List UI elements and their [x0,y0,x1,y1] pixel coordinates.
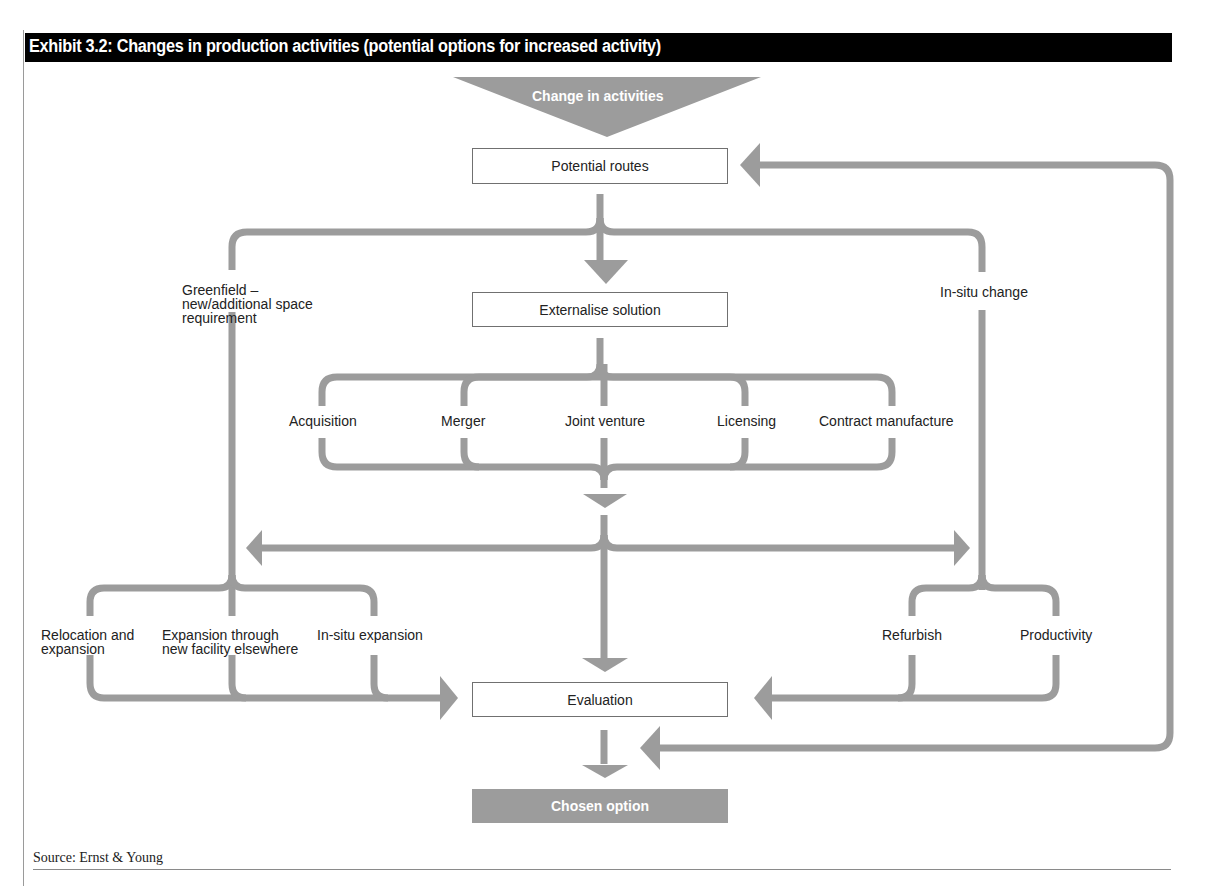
externalise-solution-box: Externalise solution [472,292,728,327]
evaluation-box: Evaluation [472,682,728,717]
option-refurbish: Refurbish [882,628,942,642]
option-joint-venture: Joint venture [565,414,645,428]
start-label: Change in activities [532,88,663,104]
chosen-option-label: Chosen option [551,798,649,814]
option-licensing: Licensing [717,414,776,428]
option-relocation-expansion: Relocation and expansion [41,628,134,656]
option-merger: Merger [441,414,485,428]
greenfield-label: Greenfield – new/additional space requir… [182,283,313,325]
externalise-solution-label: Externalise solution [539,302,660,318]
flow-connectors [0,0,1212,886]
option-new-facility: Expansion through new facility elsewhere [162,628,298,656]
chosen-option-box: Chosen option [472,789,728,823]
source-rule [33,869,1171,870]
option-productivity: Productivity [1020,628,1092,642]
option-in-situ-expansion: In-situ expansion [317,628,423,642]
source-note: Source: Ernst & Young [33,850,163,866]
potential-routes-box: Potential routes [472,148,728,184]
evaluation-label: Evaluation [567,692,632,708]
in-situ-change-label: In-situ change [940,285,1028,299]
option-acquisition: Acquisition [289,414,357,428]
potential-routes-label: Potential routes [551,158,648,174]
start-triangle [453,77,761,137]
option-contract-manufacture: Contract manufacture [819,414,954,428]
